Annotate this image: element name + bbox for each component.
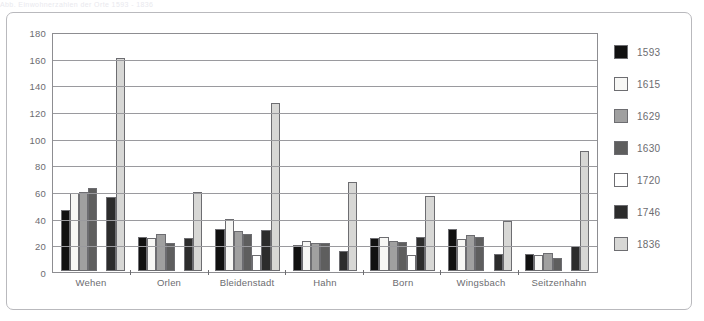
legend-label: 1630 xyxy=(637,143,660,154)
bar[interactable] xyxy=(534,255,543,271)
y-tick-label: 120 xyxy=(6,108,46,119)
legend-swatch-icon xyxy=(614,141,628,155)
bar[interactable] xyxy=(302,241,311,271)
bar[interactable] xyxy=(234,231,243,271)
bar-group xyxy=(54,35,131,271)
gridline xyxy=(53,113,597,114)
cropped-caption-text: Abb. Einwohnerzahlen der Orte 1593 - 183… xyxy=(0,0,704,9)
legend-item[interactable]: 1629 xyxy=(614,100,694,132)
y-tick-label: 140 xyxy=(6,81,46,92)
bar[interactable] xyxy=(293,245,302,271)
bar-group xyxy=(364,35,441,271)
bar[interactable] xyxy=(580,151,589,271)
y-tick-label: 180 xyxy=(6,28,46,39)
bar[interactable] xyxy=(370,238,379,271)
x-tick-label: Wingsbach xyxy=(442,277,520,293)
legend-swatch-icon xyxy=(614,109,628,123)
bar[interactable] xyxy=(543,253,552,272)
bar[interactable] xyxy=(525,254,534,271)
y-tick-label: 100 xyxy=(6,134,46,145)
x-tick-label: Orlen xyxy=(130,277,208,293)
bar[interactable] xyxy=(184,238,193,271)
bar[interactable] xyxy=(215,229,224,271)
bar[interactable] xyxy=(407,255,416,271)
x-tick-label: Wehen xyxy=(52,277,130,293)
legend-item[interactable]: 1630 xyxy=(614,132,694,164)
bar[interactable] xyxy=(106,197,115,271)
bar[interactable] xyxy=(425,196,434,271)
y-tick-label: 160 xyxy=(6,54,46,65)
bar[interactable] xyxy=(389,241,398,271)
y-tick-label: 20 xyxy=(6,241,46,252)
x-axis-category-labels: WehenOrlenBleidenstadtHahnBornWingsbachS… xyxy=(52,277,598,293)
legend-swatch-icon xyxy=(614,77,628,91)
bar[interactable] xyxy=(116,58,125,271)
bar-group xyxy=(209,35,286,271)
bar[interactable] xyxy=(261,230,270,271)
gridline xyxy=(53,60,597,61)
chart-page: Abb. Einwohnerzahlen der Orte 1593 - 183… xyxy=(0,0,704,321)
bar[interactable] xyxy=(416,237,425,271)
plot-border xyxy=(52,33,598,273)
bar[interactable] xyxy=(448,229,457,271)
legend-item[interactable]: 1836 xyxy=(614,228,694,260)
legend-swatch-icon xyxy=(614,173,628,187)
bar-groups xyxy=(54,35,596,271)
y-tick-label: 40 xyxy=(6,214,46,225)
bar[interactable] xyxy=(494,254,503,271)
gridline xyxy=(53,220,597,221)
bar[interactable] xyxy=(243,234,252,271)
bar[interactable] xyxy=(88,188,97,271)
bar[interactable] xyxy=(466,235,475,271)
bar-group xyxy=(519,35,596,271)
bar[interactable] xyxy=(571,246,580,271)
bar-group xyxy=(286,35,363,271)
legend-item[interactable]: 1746 xyxy=(614,196,694,228)
bar[interactable] xyxy=(79,192,88,271)
gridline xyxy=(53,86,597,87)
legend-swatch-icon xyxy=(614,237,628,251)
legend-label: 1615 xyxy=(637,79,660,90)
bar[interactable] xyxy=(193,192,202,271)
legend-swatch-icon xyxy=(614,45,628,59)
gridline xyxy=(53,166,597,167)
bar[interactable] xyxy=(225,219,234,271)
legend-label: 1836 xyxy=(637,239,660,250)
x-tick-label: Born xyxy=(364,277,442,293)
legend-swatch-icon xyxy=(614,205,628,219)
legend-item[interactable]: 1720 xyxy=(614,164,694,196)
legend-label: 1720 xyxy=(637,175,660,186)
x-tick-label: Seitzenhahn xyxy=(520,277,598,293)
bar[interactable] xyxy=(147,238,156,271)
bar[interactable] xyxy=(70,193,79,271)
bar[interactable] xyxy=(252,255,261,271)
bar[interactable] xyxy=(348,182,357,271)
bar[interactable] xyxy=(311,243,320,271)
legend-item[interactable]: 1593 xyxy=(614,36,694,68)
bar-group xyxy=(441,35,518,271)
bar[interactable] xyxy=(553,258,562,271)
bar[interactable] xyxy=(166,243,175,271)
bar[interactable] xyxy=(156,234,165,271)
gridline xyxy=(53,193,597,194)
x-tick-label: Hahn xyxy=(286,277,364,293)
y-tick-label: 0 xyxy=(6,268,46,279)
bar[interactable] xyxy=(379,237,388,271)
legend-item[interactable]: 1615 xyxy=(614,68,694,100)
legend-label: 1629 xyxy=(637,111,660,122)
plot-area xyxy=(52,33,598,273)
y-axis-tick-labels: 180160140120100806040200 xyxy=(0,33,46,273)
gridline xyxy=(53,246,597,247)
bar[interactable] xyxy=(138,237,147,271)
y-tick-label: 80 xyxy=(6,161,46,172)
x-tick-label: Bleidenstadt xyxy=(208,277,286,293)
gridline xyxy=(53,140,597,141)
bar[interactable] xyxy=(339,251,348,271)
legend-label: 1746 xyxy=(637,207,660,218)
y-tick-label: 60 xyxy=(6,188,46,199)
bar[interactable] xyxy=(320,243,329,271)
bar[interactable] xyxy=(457,239,466,271)
bar-group xyxy=(131,35,208,271)
chart-legend: 1593161516291630172017461836 xyxy=(614,36,694,260)
bar[interactable] xyxy=(475,237,484,271)
